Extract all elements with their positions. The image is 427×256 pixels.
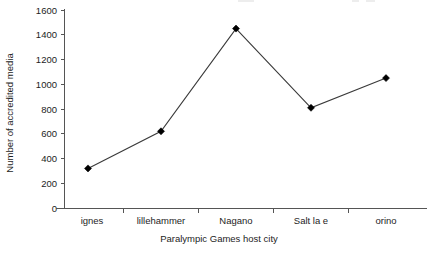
x-tick-label-nagano: Nagano: [219, 215, 252, 226]
y-tick-label-600: 600: [41, 128, 57, 139]
series-line-accredited-media: [88, 29, 386, 169]
y-tick-label-1000: 1000: [36, 79, 57, 90]
series-markers: [85, 25, 390, 172]
y-tick-label-800: 800: [41, 104, 57, 115]
cropped-title-artifact: [238, 0, 375, 2]
y-tick-label-400: 400: [41, 153, 57, 164]
x-tick-label-lillehammer: lillehammer: [137, 215, 186, 226]
x-axis-title: Paralympic Games host city: [160, 233, 278, 244]
y-tick-marks: [61, 10, 65, 208]
x-tick-label-salt-lake: Salt la e: [294, 215, 328, 226]
y-tick-label-1400: 1400: [36, 29, 57, 40]
y-tick-label-200: 200: [41, 178, 57, 189]
x-tick-marks: [124, 209, 349, 213]
chart-canvas: Number of accredited media 1600 1400 120…: [0, 0, 427, 256]
x-tick-label-torino: orino: [375, 215, 396, 226]
data-point-torino: [383, 75, 390, 82]
y-tick-label-1200: 1200: [36, 54, 57, 65]
x-tick-label-tignes: ignes: [81, 215, 104, 226]
line-chart-figure: Number of accredited media 1600 1400 120…: [0, 0, 427, 256]
y-axis-title: Number of accredited media: [4, 53, 15, 173]
y-tick-label-1600: 1600: [36, 5, 57, 16]
data-point-tignes: [85, 165, 92, 172]
